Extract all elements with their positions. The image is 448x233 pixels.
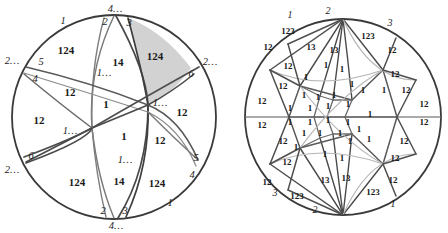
right-circle-svg xyxy=(224,0,448,233)
arc-left-bottom xyxy=(26,128,92,162)
spokes-top xyxy=(300,19,383,100)
left-disk-boundary xyxy=(12,15,216,219)
left-circle-svg xyxy=(0,0,224,233)
inner-triangulation xyxy=(289,86,397,148)
spokes-bottom xyxy=(300,134,383,215)
arc-right-lower xyxy=(148,112,198,160)
arc-ll-stub xyxy=(24,128,92,157)
right-circle-figure: 123 12 13 13 123 12 12 1 1 12 12 1 1 1 1… xyxy=(224,0,448,233)
diagram-page: 124 14 124 12 12 1 12 1 12 124 14 124 4…… xyxy=(0,0,448,233)
interior-vertex-link xyxy=(92,105,148,128)
left-circle-figure: 124 14 124 12 12 1 12 1 12 124 14 124 4…… xyxy=(0,0,224,233)
